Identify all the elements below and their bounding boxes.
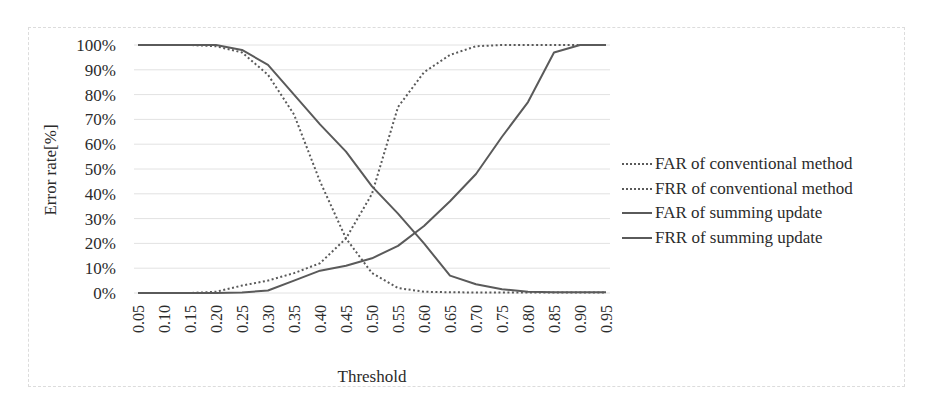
legend-label: FRR of conventional method [655, 177, 853, 202]
x-tick-label: 0.50 [364, 305, 381, 333]
y-tick-label: 80% [85, 86, 116, 105]
x-tick-label: 0.85 [546, 305, 563, 333]
y-axis-title: Error rate[%] [41, 124, 60, 215]
x-tick-label: 0.80 [520, 305, 537, 333]
y-tick-label: 100% [76, 36, 116, 55]
y-tick-label: 0% [93, 284, 116, 303]
x-tick-label: 0.15 [182, 305, 199, 333]
y-tick-label: 60% [85, 135, 116, 154]
x-tick-label: 0.35 [286, 305, 303, 333]
x-tick-label: 0.40 [312, 305, 329, 333]
legend-label: FRR of summing update [655, 226, 823, 251]
x-tick-label: 0.55 [390, 305, 407, 333]
x-tick-label: 0.20 [208, 305, 225, 333]
x-tick-label: 0.75 [494, 305, 511, 333]
legend-item-frr-summing: FRR of summing update [622, 226, 853, 251]
dotted-line-swatch-icon [622, 163, 652, 165]
y-tick-label: 50% [85, 160, 116, 179]
solid-line-swatch-icon [622, 212, 652, 214]
legend-item-frr-conventional: FRR of conventional method [622, 177, 853, 202]
x-tick-label: 0.70 [468, 305, 485, 333]
y-tick-label: 70% [85, 110, 116, 129]
y-tick-label: 40% [85, 185, 116, 204]
x-tick-label: 0.95 [598, 305, 615, 333]
x-tick-label: 0.60 [416, 305, 433, 333]
x-axis-ticks: 0.050.100.150.200.250.300.350.400.450.50… [130, 305, 615, 333]
y-axis-ticks: 0%10%20%30%40%50%60%70%80%90%100% [76, 36, 116, 303]
x-axis-title: Threshold [338, 367, 407, 386]
dotted-line-swatch-icon [622, 188, 652, 190]
y-tick-label: 90% [85, 61, 116, 80]
y-tick-label: 30% [85, 210, 116, 229]
x-tick-label: 0.30 [260, 305, 277, 333]
y-tick-label: 20% [85, 234, 116, 253]
x-tick-label: 0.65 [442, 305, 459, 333]
legend: FAR of conventional method FRR of conven… [622, 152, 853, 250]
legend-label: FAR of conventional method [655, 152, 853, 177]
solid-line-swatch-icon [622, 237, 652, 239]
x-tick-label: 0.10 [156, 305, 173, 333]
x-tick-label: 0.05 [130, 305, 147, 333]
legend-item-far-conventional: FAR of conventional method [622, 152, 853, 177]
legend-label: FAR of summing update [655, 201, 822, 226]
x-tick-label: 0.25 [234, 305, 251, 333]
legend-item-far-summing: FAR of summing update [622, 201, 853, 226]
x-tick-label: 0.90 [572, 305, 589, 333]
y-tick-label: 10% [85, 259, 116, 278]
x-tick-label: 0.45 [338, 305, 355, 333]
